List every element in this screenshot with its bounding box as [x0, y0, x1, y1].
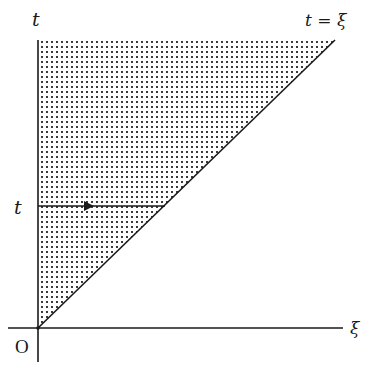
xi-axis-label: ξ: [350, 318, 361, 338]
origin-label: O: [15, 336, 29, 357]
integration-region-diagram: t t = ξ t O ξ: [0, 0, 369, 366]
origin-point: [36, 326, 40, 330]
diagonal-label: t = ξ: [305, 10, 348, 30]
horizontal-line-label: t: [14, 196, 22, 218]
t-axis-label: t: [32, 8, 40, 30]
